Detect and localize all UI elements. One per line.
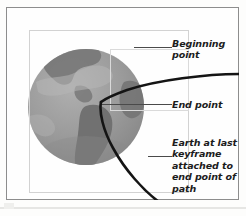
callout-beginning-point: Beginning point: [172, 38, 225, 61]
figure-page: Beginning point End point Earth at last …: [0, 0, 246, 216]
callout-earth-keyframe: Earth at last keyframe attached to end p…: [172, 137, 237, 194]
callout-end-point: End point: [172, 99, 222, 110]
scan-bottom-edge: [0, 207, 246, 209]
leader-line-earth: [148, 156, 172, 157]
leader-line-beginning: [134, 47, 172, 48]
leader-line-end: [102, 104, 172, 105]
scan-corner-artifact: [4, 203, 14, 209]
